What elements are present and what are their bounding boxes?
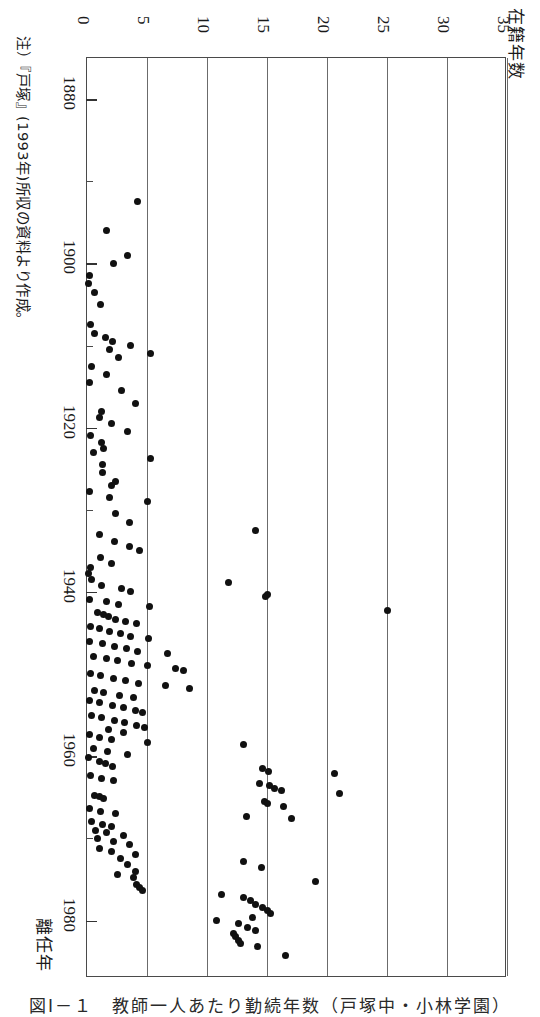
- year-tick-1910: [86, 346, 93, 347]
- scatter-point: [92, 827, 99, 834]
- scatter-point: [118, 585, 125, 592]
- scatter-point: [122, 618, 129, 625]
- scatter-point: [102, 760, 109, 767]
- gridline-25: [387, 58, 388, 976]
- scatter-point: [134, 648, 141, 655]
- scatter-point: [87, 772, 94, 779]
- scatter-point: [117, 855, 124, 862]
- scatter-point: [111, 717, 118, 724]
- plot-area: [86, 57, 506, 977]
- year-tick-1920: [86, 428, 97, 430]
- scatter-point: [213, 917, 220, 924]
- year-tick-label-1920: 1920: [61, 405, 78, 439]
- scatter-point: [127, 588, 134, 595]
- scatter-point: [288, 815, 295, 822]
- scatter-point: [86, 697, 93, 704]
- scatter-point: [124, 428, 131, 435]
- value-tick-25: 25: [375, 16, 392, 33]
- scatter-point: [162, 682, 169, 689]
- scatter-point: [135, 680, 142, 687]
- scatter-point: [132, 851, 139, 858]
- year-tick-1890: [86, 181, 93, 182]
- scatter-point: [110, 260, 117, 267]
- scatter-point: [88, 818, 95, 825]
- scatter-point: [128, 660, 135, 667]
- scatter-point: [243, 813, 250, 820]
- value-tick-35: 35: [495, 16, 512, 33]
- scatter-point: [164, 650, 171, 657]
- scatter-point: [85, 754, 92, 761]
- scatter-point: [86, 805, 93, 812]
- scatter-point: [100, 445, 107, 452]
- value-tick-20: 20: [315, 16, 332, 33]
- value-tick-30: 30: [435, 16, 452, 33]
- scatter-point: [97, 808, 104, 815]
- scatter-point: [130, 694, 137, 701]
- scatter-point: [218, 891, 225, 898]
- scatter-point: [122, 677, 129, 684]
- scatter-point: [126, 841, 133, 848]
- scatter-point: [312, 878, 319, 885]
- scatter-point: [106, 346, 113, 353]
- scatter-point: [112, 616, 119, 623]
- scatter-point: [108, 848, 115, 855]
- scatter-point: [91, 330, 98, 337]
- value-tick-10: 10: [195, 16, 212, 33]
- scatter-point: [99, 461, 106, 468]
- scatter-point: [98, 775, 105, 782]
- scatter-point: [110, 777, 117, 784]
- scatter-point: [331, 770, 338, 777]
- year-tick-label-1940: 1940: [61, 569, 78, 603]
- scatter-point: [120, 729, 127, 736]
- scatter-point: [127, 633, 134, 640]
- gridline-5: [147, 58, 148, 976]
- scatter-point: [88, 576, 95, 583]
- year-tick-1900: [86, 263, 97, 265]
- scatter-point: [267, 910, 274, 917]
- year-tick-1880: [86, 99, 97, 101]
- scatter-point: [282, 952, 289, 959]
- scatter-point: [99, 469, 106, 476]
- scatter-point: [124, 751, 131, 758]
- year-tick-1980: [86, 921, 97, 923]
- scatter-point: [133, 620, 140, 627]
- scatter-point: [265, 768, 272, 775]
- gridline-35: [507, 58, 508, 976]
- scatter-point: [87, 321, 94, 328]
- scatter-point: [86, 731, 93, 738]
- scatter-point: [86, 379, 93, 386]
- scatter-point: [139, 887, 146, 894]
- scatter-point: [103, 598, 110, 605]
- scatter-point: [98, 582, 105, 589]
- scatter-point: [90, 449, 97, 456]
- scatter-point: [99, 821, 106, 828]
- scatter-point: [104, 748, 111, 755]
- scatter-point: [120, 704, 127, 711]
- scatter-point: [133, 722, 140, 729]
- year-tick-label-1980: 1980: [61, 898, 78, 932]
- figure-caption: 図Ⅰ－１ 教師一人あたり勤続年数（戸塚中・小林学園）: [0, 992, 540, 1017]
- scatter-point: [120, 832, 127, 839]
- source-note: 注）『戸塚』(1993年)所収の資料より作成。: [16, 36, 31, 327]
- scatter-point: [86, 638, 93, 645]
- scatter-point: [106, 494, 113, 501]
- scatter-point: [105, 726, 112, 733]
- scatter-point: [147, 455, 154, 462]
- scatter-point: [91, 687, 98, 694]
- scatter-point: [108, 736, 115, 743]
- scatter-point: [240, 858, 247, 865]
- scatter-point: [110, 675, 117, 682]
- scatter-point: [90, 653, 97, 660]
- scatter-point: [103, 829, 110, 836]
- scatter-point: [87, 670, 94, 677]
- year-tick-1940: [86, 592, 97, 594]
- scatter-point: [139, 709, 146, 716]
- scatter-point: [105, 613, 112, 620]
- scatter-point: [240, 741, 247, 748]
- scatter-point: [85, 280, 92, 287]
- scatter-point: [180, 667, 187, 674]
- value-tick-0: 0: [75, 16, 92, 25]
- scatter-point: [116, 692, 123, 699]
- scatter-point: [186, 685, 193, 692]
- scatter-point: [97, 554, 104, 561]
